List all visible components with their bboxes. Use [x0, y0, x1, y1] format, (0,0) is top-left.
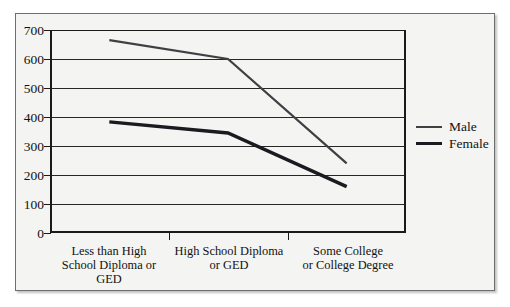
- y-tick-mark: [44, 233, 51, 234]
- series-line-male: [109, 40, 346, 163]
- x-category-label-2: High School Diploma or GED: [171, 245, 287, 273]
- legend: Male Female: [416, 118, 486, 152]
- legend-swatch-female-icon: [416, 142, 442, 145]
- x-category-label-3-line-2: or College Degree: [290, 259, 406, 273]
- y-tick-label: 300: [24, 140, 44, 154]
- legend-swatch-male-icon: [416, 126, 442, 128]
- x-category-label-3: Some College or College Degree: [290, 245, 406, 273]
- y-tick-label: 0: [37, 227, 44, 241]
- x-category-label-3-line-1: Some College: [290, 245, 406, 259]
- y-tick-label: 500: [24, 82, 44, 96]
- legend-label-female: Female: [449, 137, 489, 151]
- x-category-label-1-line-2: School Diploma or: [52, 259, 166, 273]
- legend-label-male: Male: [449, 120, 477, 134]
- x-category-label-1: Less than High School Diploma or GED: [52, 245, 166, 287]
- y-tick-label: 100: [24, 198, 44, 212]
- legend-item-male: Male: [416, 118, 486, 135]
- data-series-layer: [50, 30, 406, 233]
- y-axis: 700 600 500 400 300 200 100 0: [0, 0, 44, 307]
- chart-container: 700 600 500 400 300 200 100 0 Less than …: [0, 0, 510, 307]
- y-tick-label: 200: [24, 169, 44, 183]
- x-category-label-2-line-2: or GED: [171, 259, 287, 273]
- y-tick-label: 400: [24, 111, 44, 125]
- x-category-label-1-line-1: Less than High: [52, 245, 166, 259]
- legend-item-female: Female: [416, 135, 486, 152]
- x-category-label-2-line-1: High School Diploma: [171, 245, 287, 259]
- x-tick-mark: [169, 233, 170, 240]
- y-tick-label: 700: [24, 24, 44, 38]
- x-category-label-1-line-3: GED: [52, 273, 166, 287]
- y-tick-label: 600: [24, 53, 44, 67]
- x-tick-mark: [288, 233, 289, 240]
